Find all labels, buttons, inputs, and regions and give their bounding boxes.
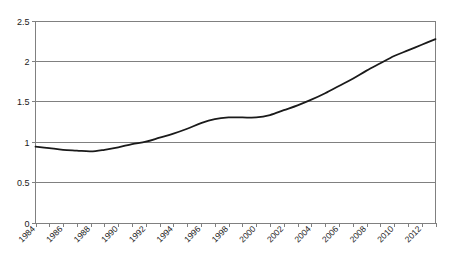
x-tick-label: 1986: [44, 224, 65, 245]
chart-canvas: 00.511.522.5 198419861988199019921994199…: [0, 0, 450, 270]
data-series: [36, 39, 436, 151]
y-tick-label: 1: [24, 138, 29, 148]
x-tick-label: 2004: [292, 224, 313, 245]
y-tick-label: 1.5: [17, 97, 30, 107]
plot-frame: [36, 21, 436, 223]
x-tick-label: 1996: [182, 224, 203, 245]
series-line: [36, 39, 436, 151]
x-tick-label: 2012: [403, 224, 424, 245]
x-tick-label: 2006: [320, 224, 341, 245]
line-chart: 00.511.522.5 198419861988199019921994199…: [0, 0, 450, 270]
x-tick-label: 2008: [347, 224, 368, 245]
x-tick-label: 1984: [16, 224, 37, 245]
x-tick-label: 1992: [127, 224, 148, 245]
y-tick-label: 2: [24, 57, 29, 67]
gridlines: [36, 22, 436, 224]
x-axis-tick-labels: 1984198619881990199219941996199820002002…: [16, 224, 423, 245]
x-tick-label: 2002: [265, 224, 286, 245]
y-tick-label: 0.5: [17, 178, 30, 188]
x-tick-label: 1994: [154, 224, 175, 245]
y-axis-tick-labels: 00.511.522.5: [17, 17, 36, 229]
x-tick-label: 1988: [72, 224, 93, 245]
x-tick-label: 2000: [237, 224, 258, 245]
x-tick-label: 1998: [210, 224, 231, 245]
x-tick-label: 2010: [375, 224, 396, 245]
y-tick-label: 2.5: [17, 17, 30, 27]
x-tick-label: 1990: [99, 224, 120, 245]
